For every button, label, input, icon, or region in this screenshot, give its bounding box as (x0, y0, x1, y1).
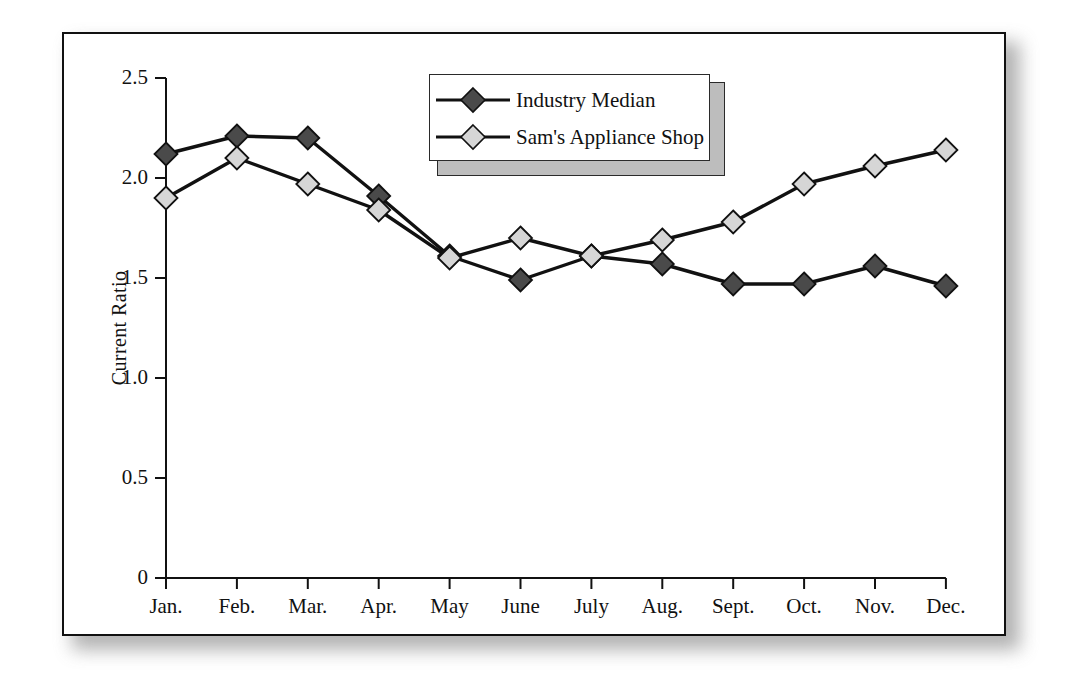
legend-marker-sams-appliance-shop (430, 122, 516, 152)
legend-entry-industry-median: Industry Median (430, 82, 711, 118)
y-axis-tick-label: 0 (138, 567, 149, 588)
y-axis-tick-label: 1.0 (122, 367, 148, 388)
y-axis-tick-label: 0.5 (122, 467, 148, 488)
legend-label-sams-appliance-shop: Sam's Appliance Shop (516, 127, 704, 148)
y-axis-tick-label: 1.5 (122, 267, 148, 288)
y-axis-tick-label: 2.5 (122, 67, 148, 88)
y-axis-tick-label: 2.0 (122, 167, 148, 188)
legend-entry-sams-appliance-shop: Sam's Appliance Shop (430, 119, 711, 155)
chart-figure: Current Ratio 00.51.01.52.02.5 Jan.Feb.M… (0, 0, 1076, 681)
legend-label-industry-median: Industry Median (516, 90, 655, 111)
x-axis-tick-label: Dec. (896, 596, 996, 617)
legend-marker-industry-median (430, 85, 516, 115)
legend-box: Industry Median Sam's Appliance Shop (429, 74, 710, 161)
chart-legend: Industry Median Sam's Appliance Shop (429, 74, 717, 168)
